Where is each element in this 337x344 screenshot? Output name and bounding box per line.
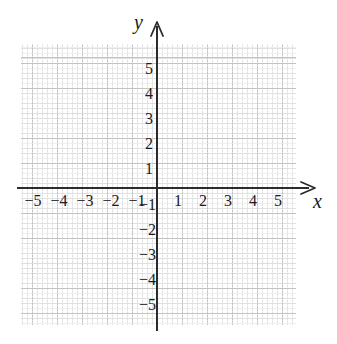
tick-label-y-neg3: −3 bbox=[126, 246, 156, 264]
y-axis-label: y bbox=[134, 11, 143, 34]
tick-label-x-neg3: −3 bbox=[74, 192, 96, 210]
tick-label-y-4: 4 bbox=[131, 85, 153, 103]
tick-label-x-5: 5 bbox=[267, 192, 289, 210]
x-axis-line bbox=[17, 187, 309, 189]
tick-label-y-neg5: −5 bbox=[126, 296, 156, 314]
tick-label-x-1: 1 bbox=[167, 192, 189, 210]
coordinate-plane: y x −5 −4 −3 −2 −1 1 2 3 4 5 5 4 3 2 1 −… bbox=[0, 0, 337, 344]
tick-label-y-neg2: −2 bbox=[126, 221, 156, 239]
y-axis-arrow-icon bbox=[148, 20, 166, 38]
tick-label-x-4: 4 bbox=[242, 192, 264, 210]
tick-label-x-neg2: −2 bbox=[100, 192, 122, 210]
tick-label-y-neg4: −4 bbox=[126, 271, 156, 289]
tick-label-y-1: 1 bbox=[131, 160, 153, 178]
tick-label-x-neg5: −5 bbox=[22, 192, 44, 210]
tick-label-y-2: 2 bbox=[131, 135, 153, 153]
tick-label-x-3: 3 bbox=[217, 192, 239, 210]
tick-label-y-3: 3 bbox=[131, 110, 153, 128]
x-axis-label: x bbox=[313, 190, 322, 213]
tick-label-y-neg1: −1 bbox=[126, 196, 156, 214]
tick-label-y-5: 5 bbox=[131, 60, 153, 78]
tick-label-x-neg4: −4 bbox=[48, 192, 70, 210]
grid-background bbox=[21, 44, 296, 325]
tick-label-x-2: 2 bbox=[192, 192, 214, 210]
y-axis-line bbox=[156, 26, 158, 331]
